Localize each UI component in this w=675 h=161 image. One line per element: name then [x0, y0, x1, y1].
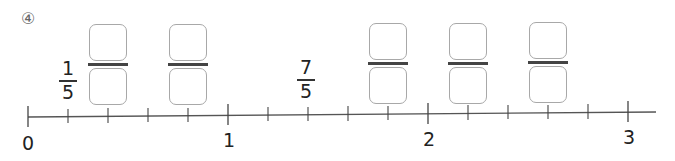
- axis-line: [28, 112, 656, 117]
- tick-label-3: 3: [617, 126, 641, 148]
- number-line: [0, 0, 675, 161]
- tick-label-0: 0: [16, 132, 40, 154]
- tick-label-1: 1: [217, 129, 241, 151]
- number-line-exercise: ④ 1 5 7 5: [0, 0, 675, 161]
- tick-label-2: 2: [417, 128, 441, 150]
